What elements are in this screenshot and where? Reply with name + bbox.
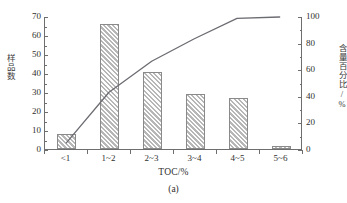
right-minor-tick-2	[300, 84, 303, 85]
x-tick-label-5: 4~5	[216, 153, 259, 163]
left-tick-50	[44, 55, 48, 56]
cumulative-line-series	[45, 17, 301, 149]
left-tick-10	[44, 131, 48, 132]
x-tick-label-2: 1~2	[87, 153, 130, 163]
plot-area	[44, 17, 302, 150]
right-minor-tick-0	[300, 137, 303, 138]
y-axis-left-title: 样品数	[2, 54, 14, 81]
right-tick-40	[298, 97, 302, 98]
left-tick-60	[44, 36, 48, 37]
left-tick-label-30: 30	[19, 87, 41, 97]
left-tick-70	[44, 17, 48, 18]
left-tick-30	[44, 93, 48, 94]
right-tick-label-100: 100	[306, 11, 330, 21]
x-tick-label-4: 3~4	[173, 153, 216, 163]
right-tick-20	[298, 123, 302, 124]
left-minor-tick-2	[44, 103, 47, 104]
left-tick-20	[44, 112, 48, 113]
left-minor-tick-0	[44, 141, 47, 142]
left-minor-tick-5	[44, 46, 47, 47]
left-minor-tick-6	[44, 27, 47, 28]
right-tick-80	[298, 44, 302, 45]
left-tick-label-70: 70	[19, 11, 41, 21]
right-tick-label-60: 60	[306, 64, 330, 74]
chart-figure: 样品数 含量百分比/% 010203040506070020406080100<…	[0, 0, 347, 203]
figure-caption: (a)	[0, 184, 347, 194]
right-minor-tick-4	[300, 30, 303, 31]
x-tick-label-3: 2~3	[130, 153, 173, 163]
right-tick-label-0: 0	[306, 144, 330, 154]
x-tick-label-6: 5~6	[259, 153, 302, 163]
left-tick-label-40: 40	[19, 68, 41, 78]
right-tick-100	[298, 17, 302, 18]
right-minor-tick-3	[300, 57, 303, 58]
x-axis-title: TOC/%	[0, 167, 347, 177]
right-minor-tick-1	[300, 110, 303, 111]
left-tick-label-0: 0	[19, 144, 41, 154]
left-tick-label-50: 50	[19, 49, 41, 59]
right-tick-60	[298, 70, 302, 71]
left-minor-tick-1	[44, 122, 47, 123]
x-tick-label-1: <1	[44, 153, 87, 163]
left-tick-40	[44, 74, 48, 75]
left-tick-label-20: 20	[19, 106, 41, 116]
left-minor-tick-3	[44, 84, 47, 85]
y-axis-right-title: 含量百分比/%	[334, 44, 346, 109]
right-tick-label-80: 80	[306, 38, 330, 48]
cumulative-line-path	[66, 17, 279, 143]
x-tick-6	[302, 150, 303, 154]
right-tick-label-40: 40	[306, 91, 330, 101]
left-tick-label-10: 10	[19, 125, 41, 135]
left-tick-label-60: 60	[19, 30, 41, 40]
left-minor-tick-4	[44, 65, 47, 66]
right-tick-label-20: 20	[306, 117, 330, 127]
